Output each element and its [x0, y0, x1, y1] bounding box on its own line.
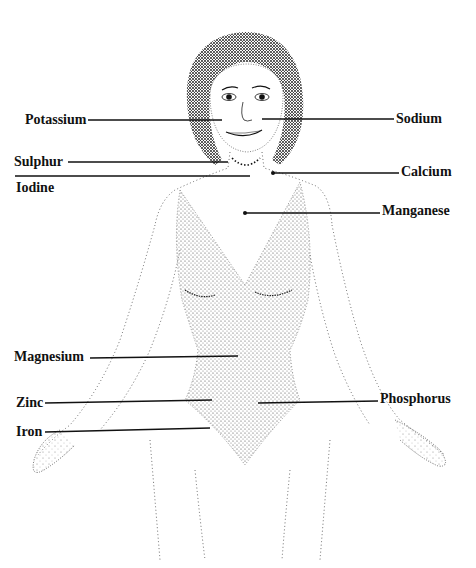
label-manganese: Manganese	[382, 203, 450, 219]
label-iodine: Iodine	[16, 180, 54, 196]
label-iron: Iron	[16, 424, 42, 440]
necklace	[232, 158, 260, 165]
label-sodium: Sodium	[396, 111, 442, 127]
swimsuit	[176, 182, 310, 465]
label-calcium: Calcium	[401, 164, 452, 180]
face	[210, 64, 283, 152]
label-zinc: Zinc	[16, 395, 43, 411]
figure-illustration	[0, 0, 476, 568]
right-hand	[395, 420, 446, 466]
label-potassium: Potassium	[25, 112, 86, 128]
label-sulphur: Sulphur	[14, 154, 63, 170]
label-phosphorus: Phosphorus	[380, 391, 451, 407]
mineral-body-diagram: Potassium Sodium Sulphur Iodine Calcium …	[0, 0, 476, 568]
label-magnesium: Magnesium	[14, 349, 84, 365]
